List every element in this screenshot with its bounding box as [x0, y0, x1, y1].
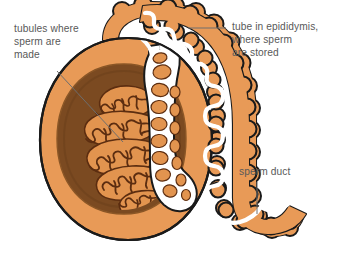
tubules-label: tubules where sperm are made [14, 22, 79, 62]
sperm-duct-label: sperm duct [239, 165, 290, 178]
epididymis-label: tube in epididymis, where sperm are stor… [232, 20, 318, 60]
